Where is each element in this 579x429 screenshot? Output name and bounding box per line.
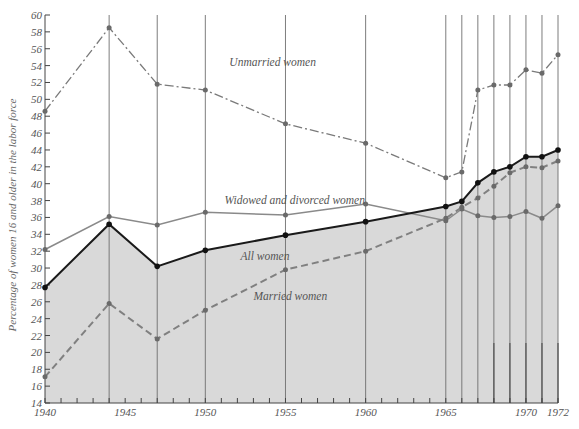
data-point [475, 180, 481, 186]
data-point [363, 219, 369, 225]
x-tick-label: 1950 [194, 406, 217, 418]
data-point [107, 214, 112, 219]
y-tick-label: 58 [31, 26, 43, 38]
data-point [491, 169, 497, 175]
data-point [363, 249, 368, 254]
data-point [363, 141, 368, 146]
data-point [507, 170, 512, 175]
data-point [155, 223, 160, 228]
data-point [556, 52, 561, 57]
cropped-caption [60, 424, 579, 429]
data-point [43, 247, 48, 252]
data-point [556, 158, 561, 163]
y-tick-label: 48 [31, 110, 43, 122]
widowed-divorced-label: Widowed and divorced women [225, 194, 366, 206]
labor-force-chart: 1416182022242628303234363840424446485052… [0, 0, 579, 429]
y-tick-label: 38 [30, 195, 43, 207]
y-tick-label: 16 [31, 380, 43, 392]
data-point [107, 301, 112, 306]
y-tick-label: 26 [31, 296, 43, 308]
data-point [523, 164, 528, 169]
data-point [155, 336, 160, 341]
y-tick-label: 50 [31, 93, 43, 105]
data-point [539, 165, 544, 170]
data-point [107, 25, 112, 30]
data-point [283, 212, 288, 217]
data-point [283, 232, 289, 238]
data-point [523, 67, 528, 72]
y-tick-label: 24 [31, 313, 43, 325]
y-tick-label: 46 [31, 127, 43, 139]
filled-area [45, 150, 558, 403]
data-point [43, 374, 48, 379]
data-point [443, 216, 448, 221]
x-tick-label: 1970 [515, 406, 538, 418]
data-point [475, 88, 480, 93]
data-point [106, 221, 112, 227]
x-tick-label: 1960 [355, 406, 378, 418]
data-point [443, 204, 449, 210]
data-point [443, 175, 448, 180]
y-tick-label: 32 [30, 245, 43, 257]
y-tick-label: 34 [30, 228, 43, 240]
data-point [523, 154, 529, 160]
y-tick-label: 56 [31, 43, 43, 55]
y-tick-label: 28 [31, 279, 43, 291]
all-women-label: All women [240, 250, 290, 262]
x-tick-label: 1940 [34, 406, 57, 418]
data-point [154, 264, 160, 270]
data-point [491, 215, 496, 220]
unmarried-women-label: Unmarried women [229, 56, 316, 68]
x-tick-label: 1955 [274, 406, 297, 418]
data-point [539, 71, 544, 76]
y-axis-title: Percentage of women 16 and older in the … [6, 98, 18, 332]
data-point [459, 199, 465, 205]
y-tick-label: 20 [31, 346, 43, 358]
data-point [203, 210, 208, 215]
data-point [556, 203, 561, 208]
all-women-filled-area [45, 150, 558, 403]
y-tick-label: 40 [31, 178, 43, 190]
data-point [203, 308, 208, 313]
y-tick-label: 22 [31, 330, 43, 342]
y-tick-label: 52 [31, 76, 43, 88]
y-tick-label: 18 [31, 363, 43, 375]
data-point [555, 147, 561, 153]
data-point [459, 169, 464, 174]
x-tick-label: 1965 [435, 406, 458, 418]
data-point [475, 213, 480, 218]
data-point [523, 209, 528, 214]
x-tick-label: 1972 [547, 406, 570, 418]
data-point [539, 216, 544, 221]
y-tick-label: 30 [30, 262, 43, 274]
data-point [475, 196, 480, 201]
y-tick-label: 60 [31, 9, 43, 21]
data-point [203, 248, 209, 254]
data-point [283, 121, 288, 126]
x-tick-label: 1945 [114, 406, 137, 418]
y-tick-label: 36 [30, 211, 43, 223]
data-point [507, 214, 512, 219]
data-point [43, 109, 48, 114]
data-point [459, 205, 464, 210]
data-point [42, 285, 48, 291]
data-point [507, 83, 512, 88]
data-point [507, 164, 513, 170]
data-point [203, 88, 208, 93]
y-tick-label: 44 [31, 144, 43, 156]
data-point [283, 267, 288, 272]
data-point [155, 82, 160, 87]
data-point [491, 83, 496, 88]
data-point [539, 154, 545, 160]
y-tick-label: 54 [31, 60, 43, 72]
married-women-label: Married women [252, 290, 327, 302]
data-point [491, 184, 496, 189]
unmarried-women-line [45, 28, 558, 178]
y-tick-label: 42 [31, 161, 43, 173]
